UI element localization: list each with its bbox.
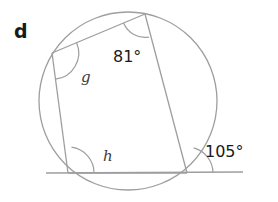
part-label-d: d <box>14 20 28 42</box>
angle-label-105: 105° <box>205 142 244 161</box>
angle-arc-81 <box>124 23 149 37</box>
angle-label-h: h <box>103 147 113 165</box>
circumscribed-circle <box>39 12 217 190</box>
angle-label-81: 81° <box>113 47 141 66</box>
angle-arc-h <box>72 147 95 173</box>
angle-label-g: g <box>81 68 91 86</box>
chord-left-to-bottom-left <box>52 53 68 173</box>
geometry-diagram-canvas: d 81° g h 105° <box>0 0 278 202</box>
geometry-figure: d 81° g h 105° <box>0 0 278 202</box>
angle-arc-g <box>56 43 79 79</box>
chord-top-to-bottom-right <box>145 14 187 173</box>
